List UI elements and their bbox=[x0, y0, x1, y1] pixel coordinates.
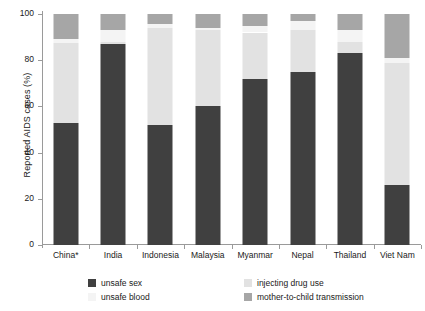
legend-item[interactable]: unsafe blood bbox=[88, 292, 150, 302]
stacked-bar[interactable] bbox=[290, 14, 315, 245]
bar-segment-unsafe-blood[interactable] bbox=[385, 58, 410, 63]
legend-swatch-icon bbox=[244, 279, 252, 287]
bar-segment-unsafe-sex[interactable] bbox=[243, 79, 268, 245]
plot-area: 020406080100 bbox=[42, 14, 421, 245]
legend-label: unsafe blood bbox=[101, 292, 150, 302]
bar-segment-mother-to-child-transmission[interactable] bbox=[385, 14, 410, 58]
bar-segment-unsafe-sex[interactable] bbox=[148, 125, 173, 245]
y-axis-tick-label: 80 bbox=[8, 55, 34, 64]
bar-segment-injecting-drug-use[interactable] bbox=[53, 43, 78, 123]
legend-item[interactable]: mother-to-child transmission bbox=[244, 292, 364, 302]
bar-segment-unsafe-sex[interactable] bbox=[195, 106, 220, 245]
x-axis-tick-mark bbox=[279, 245, 280, 249]
stacked-bar-chart: Reported AIDS cases (%) 020406080100 Chi… bbox=[0, 0, 425, 311]
bar-segment-mother-to-child-transmission[interactable] bbox=[148, 14, 173, 24]
bar-segment-injecting-drug-use[interactable] bbox=[148, 28, 173, 125]
x-axis-label-nepal: Nepal bbox=[279, 250, 326, 260]
y-axis-tick-label: 100 bbox=[8, 9, 34, 18]
bar-segment-unsafe-blood[interactable] bbox=[337, 30, 362, 42]
bar-segment-injecting-drug-use[interactable] bbox=[385, 63, 410, 185]
x-axis-label-thailand: Thailand bbox=[326, 250, 373, 260]
bar-slot bbox=[42, 14, 89, 245]
stacked-bar[interactable] bbox=[243, 14, 268, 245]
bar-segment-injecting-drug-use[interactable] bbox=[101, 42, 126, 44]
y-axis-tick-label: 20 bbox=[8, 194, 34, 203]
legend-swatch-icon bbox=[88, 279, 96, 287]
bar-segment-unsafe-blood[interactable] bbox=[290, 21, 315, 30]
bar-segment-injecting-drug-use[interactable] bbox=[195, 30, 220, 106]
x-axis-label-india: India bbox=[89, 250, 136, 260]
bar-slot bbox=[232, 14, 279, 245]
chart-legend: unsafe sexinjecting drug useunsafe blood… bbox=[88, 278, 418, 308]
legend-swatch-icon bbox=[88, 293, 96, 301]
bar-segment-injecting-drug-use[interactable] bbox=[290, 30, 315, 72]
stacked-bar[interactable] bbox=[53, 14, 78, 245]
x-axis-label-indonesia: Indonesia bbox=[137, 250, 184, 260]
bar-segment-unsafe-blood[interactable] bbox=[148, 24, 173, 27]
x-axis-label-viet-nam: Viet Nam bbox=[374, 250, 421, 260]
x-axis-labels: China*IndiaIndonesiaMalaysiaMyanmarNepal… bbox=[42, 250, 421, 266]
bar-segment-mother-to-child-transmission[interactable] bbox=[101, 14, 126, 30]
bar-segment-unsafe-sex[interactable] bbox=[290, 72, 315, 245]
x-axis-label-china: China* bbox=[42, 250, 89, 260]
y-axis-tick-label: 0 bbox=[8, 240, 34, 249]
x-axis-label-myanmar: Myanmar bbox=[232, 250, 279, 260]
y-axis-tick-label: 40 bbox=[8, 148, 34, 157]
bar-segment-injecting-drug-use[interactable] bbox=[243, 33, 268, 79]
legend-item[interactable]: injecting drug use bbox=[244, 278, 324, 288]
legend-label: unsafe sex bbox=[101, 278, 142, 288]
y-axis-tick-mark bbox=[38, 245, 42, 246]
bar-group bbox=[42, 14, 421, 245]
bar-slot bbox=[374, 14, 421, 245]
x-axis-tick-mark bbox=[421, 245, 422, 249]
bar-slot bbox=[326, 14, 373, 245]
bar-segment-unsafe-blood[interactable] bbox=[195, 28, 220, 30]
stacked-bar[interactable] bbox=[101, 14, 126, 245]
bar-segment-unsafe-blood[interactable] bbox=[243, 26, 268, 33]
x-axis-tick-mark bbox=[89, 245, 90, 249]
stacked-bar[interactable] bbox=[195, 14, 220, 245]
x-axis-tick-mark bbox=[137, 245, 138, 249]
bar-segment-mother-to-child-transmission[interactable] bbox=[290, 14, 315, 21]
x-axis-label-malaysia: Malaysia bbox=[184, 250, 231, 260]
legend-label: mother-to-child transmission bbox=[257, 292, 364, 302]
bar-segment-unsafe-sex[interactable] bbox=[101, 44, 126, 245]
bar-slot bbox=[137, 14, 184, 245]
legend-swatch-icon bbox=[244, 293, 252, 301]
stacked-bar[interactable] bbox=[385, 14, 410, 245]
bar-segment-unsafe-blood[interactable] bbox=[101, 30, 126, 42]
y-axis-tick-label: 60 bbox=[8, 101, 34, 110]
y-axis-title: Reported AIDS cases (%) bbox=[22, 40, 32, 210]
bar-slot bbox=[184, 14, 231, 245]
legend-label: injecting drug use bbox=[257, 278, 324, 288]
bar-slot bbox=[279, 14, 326, 245]
bar-segment-mother-to-child-transmission[interactable] bbox=[195, 14, 220, 28]
x-axis-tick-mark bbox=[374, 245, 375, 249]
x-axis-tick-mark bbox=[326, 245, 327, 249]
bar-segment-mother-to-child-transmission[interactable] bbox=[243, 14, 268, 26]
legend-item[interactable]: unsafe sex bbox=[88, 278, 142, 288]
bar-slot bbox=[89, 14, 136, 245]
bar-segment-unsafe-sex[interactable] bbox=[385, 185, 410, 245]
bar-segment-injecting-drug-use[interactable] bbox=[337, 42, 362, 54]
bar-segment-unsafe-sex[interactable] bbox=[53, 123, 78, 245]
x-axis-tick-mark bbox=[232, 245, 233, 249]
bar-segment-unsafe-sex[interactable] bbox=[337, 53, 362, 245]
stacked-bar[interactable] bbox=[148, 14, 173, 245]
bar-segment-unsafe-blood[interactable] bbox=[53, 39, 78, 42]
bar-segment-mother-to-child-transmission[interactable] bbox=[337, 14, 362, 30]
x-axis-tick-mark bbox=[184, 245, 185, 249]
bar-segment-mother-to-child-transmission[interactable] bbox=[53, 14, 78, 39]
stacked-bar[interactable] bbox=[337, 14, 362, 245]
